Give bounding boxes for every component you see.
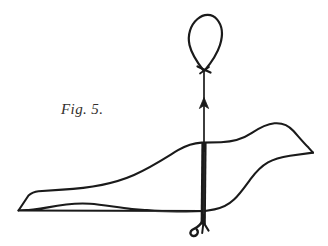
figure-drawing-canvas (0, 0, 328, 246)
figure-illustration: Fig. 5. (0, 0, 328, 246)
skewer-highlight-path (204, 152, 205, 214)
figure-caption: Fig. 5. (61, 101, 103, 118)
bottom-hook-stub-path (202, 225, 203, 234)
thick-skewer-group (203, 143, 204, 225)
